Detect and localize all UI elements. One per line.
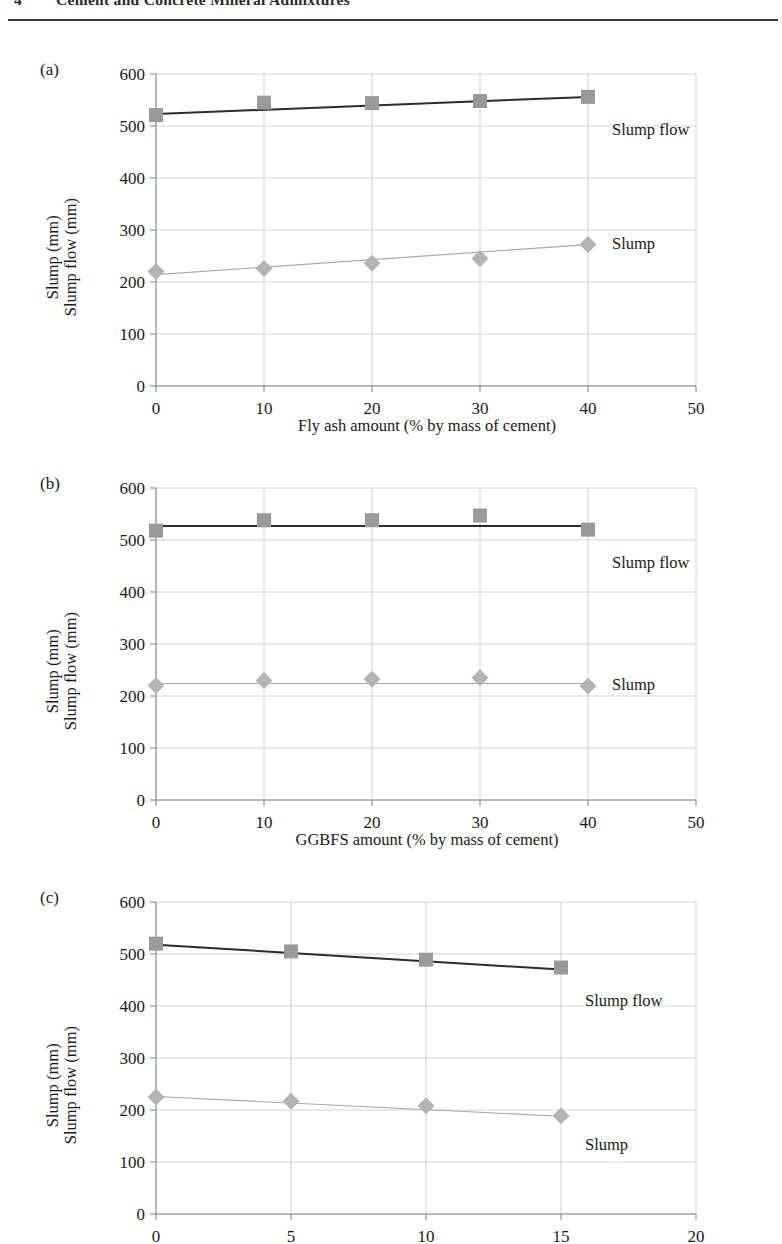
chart-svg-a: 010020030040050060001020304050Slump flow… bbox=[96, 56, 756, 446]
chart-svg-b: 010020030040050060001020304050Slump flow… bbox=[96, 470, 756, 860]
y-tick-label: 0 bbox=[137, 377, 146, 396]
y-axis-title-line2: Slump flow (mm) bbox=[62, 612, 80, 730]
y-tick-label: 500 bbox=[120, 531, 146, 550]
series-label-slump-flow: Slump flow bbox=[585, 991, 663, 1010]
marker-slump bbox=[580, 678, 597, 695]
y-axis-title-line1: Slump (mm) bbox=[44, 612, 62, 730]
y-tick-label: 400 bbox=[120, 169, 146, 188]
chart-svg-c: 010020030040050060005101520Slump flowSlu… bbox=[96, 884, 756, 1244]
series-label-slump-flow: Slump flow bbox=[612, 120, 690, 139]
marker-slump-flow bbox=[284, 944, 298, 958]
marker-slump bbox=[256, 672, 273, 689]
trendline-slump-flow bbox=[156, 945, 561, 970]
y-axis-title-line1: Slump (mm) bbox=[44, 198, 62, 316]
x-tick-label: 5 bbox=[287, 1227, 296, 1244]
y-axis-title-a: Slump (mm) Slump flow (mm) bbox=[44, 198, 81, 316]
page-folio: 4 bbox=[14, 0, 22, 11]
series-label-slump: Slump bbox=[612, 234, 655, 253]
panel-label-b: (b) bbox=[40, 474, 60, 494]
plot-area-a: 010020030040050060001020304050Slump flow… bbox=[96, 56, 756, 446]
y-tick-label: 100 bbox=[120, 739, 146, 758]
figure-panel-b: (b) Slump (mm) Slump flow (mm) 010020030… bbox=[0, 462, 782, 862]
y-tick-label: 200 bbox=[120, 273, 146, 292]
x-tick-label: 15 bbox=[553, 1227, 570, 1244]
series-label-slump: Slump bbox=[585, 1135, 628, 1154]
y-tick-label: 500 bbox=[120, 945, 146, 964]
marker-slump-flow bbox=[419, 953, 433, 967]
y-tick-label: 600 bbox=[120, 65, 146, 84]
running-header: 4 Cement and Concrete Mineral Admixtures bbox=[0, 0, 782, 30]
plot-area-c: 010020030040050060005101520Slump flowSlu… bbox=[96, 884, 756, 1244]
y-axis-title-c: Slump (mm) Slump flow (mm) bbox=[44, 1026, 81, 1144]
marker-slump bbox=[364, 255, 381, 272]
marker-slump-flow bbox=[581, 90, 595, 104]
trendline-slump bbox=[156, 1096, 561, 1116]
y-tick-label: 300 bbox=[120, 635, 146, 654]
y-tick-label: 300 bbox=[120, 1049, 146, 1068]
marker-slump-flow bbox=[581, 523, 595, 537]
marker-slump-flow bbox=[473, 94, 487, 108]
y-axis-title-b: Slump (mm) Slump flow (mm) bbox=[44, 612, 81, 730]
marker-slump bbox=[580, 236, 597, 253]
y-tick-label: 400 bbox=[120, 997, 146, 1016]
header-divider bbox=[8, 19, 778, 21]
x-axis-title-a: Fly ash amount (% by mass of cement) bbox=[36, 416, 782, 436]
marker-slump-flow bbox=[149, 937, 163, 951]
series-label-slump-flow: Slump flow bbox=[612, 553, 690, 572]
x-tick-label: 20 bbox=[688, 1227, 705, 1244]
y-tick-label: 600 bbox=[120, 479, 146, 498]
y-tick-label: 0 bbox=[137, 791, 146, 810]
x-axis-title-b: GGBFS amount (% by mass of cement) bbox=[36, 830, 782, 850]
y-tick-label: 200 bbox=[120, 1101, 146, 1120]
marker-slump-flow bbox=[365, 96, 379, 110]
page-title: Cement and Concrete Mineral Admixtures bbox=[56, 0, 350, 11]
marker-slump bbox=[148, 1089, 165, 1106]
x-tick-label: 0 bbox=[152, 1227, 161, 1244]
marker-slump-flow bbox=[554, 961, 568, 975]
marker-slump-flow bbox=[257, 96, 271, 110]
panel-label-a: (a) bbox=[40, 60, 59, 80]
y-tick-label: 500 bbox=[120, 117, 146, 136]
y-axis-title-line2: Slump flow (mm) bbox=[62, 1026, 80, 1144]
marker-slump bbox=[283, 1093, 300, 1110]
marker-slump bbox=[148, 677, 165, 694]
figure-panel-a: (a) Slump (mm) Slump flow (mm) 010020030… bbox=[0, 48, 782, 448]
x-tick-label: 10 bbox=[418, 1227, 435, 1244]
figure-panel-c: (c) Slump (mm) Slump flow (mm) 010020030… bbox=[0, 876, 782, 1244]
marker-slump bbox=[148, 263, 165, 280]
marker-slump-flow bbox=[257, 513, 271, 527]
y-axis-title-line1: Slump (mm) bbox=[44, 1026, 62, 1144]
y-tick-label: 100 bbox=[120, 1153, 146, 1172]
marker-slump-flow bbox=[149, 108, 163, 122]
y-tick-label: 0 bbox=[137, 1205, 146, 1224]
y-tick-label: 200 bbox=[120, 687, 146, 706]
marker-slump-flow bbox=[365, 513, 379, 527]
y-tick-label: 600 bbox=[120, 893, 146, 912]
y-axis-title-line2: Slump flow (mm) bbox=[62, 198, 80, 316]
marker-slump bbox=[364, 671, 381, 688]
panel-label-c: (c) bbox=[40, 888, 59, 908]
series-label-slump: Slump bbox=[612, 675, 655, 694]
marker-slump bbox=[418, 1097, 435, 1114]
marker-slump-flow bbox=[473, 509, 487, 523]
y-tick-label: 300 bbox=[120, 221, 146, 240]
marker-slump-flow bbox=[149, 524, 163, 538]
marker-slump bbox=[256, 260, 273, 277]
y-tick-label: 400 bbox=[120, 583, 146, 602]
y-tick-label: 100 bbox=[120, 325, 146, 344]
plot-area-b: 010020030040050060001020304050Slump flow… bbox=[96, 470, 756, 860]
